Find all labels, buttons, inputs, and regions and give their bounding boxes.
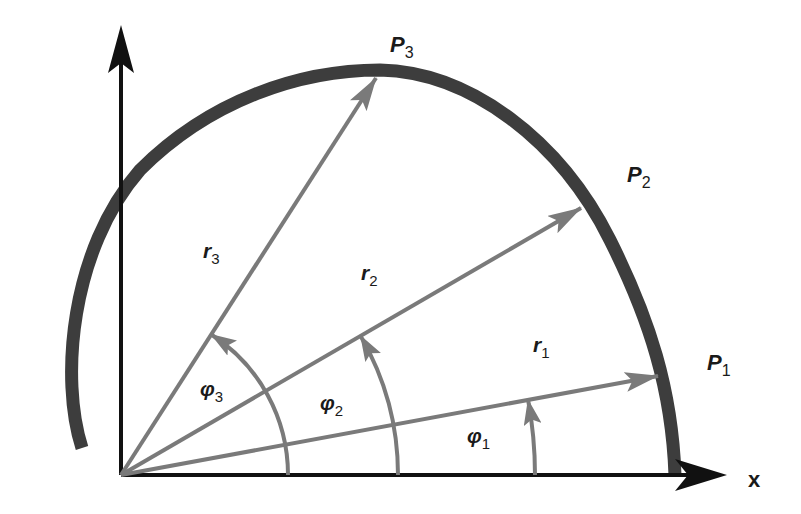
x-axis-label: x xyxy=(748,467,761,492)
angle-arcs xyxy=(211,335,535,476)
point-label-3: P3 xyxy=(390,32,414,61)
point-label-2: P2 xyxy=(627,162,651,191)
radius-label-3: r3 xyxy=(203,239,220,267)
radius-vectors xyxy=(121,78,658,475)
angle-label-1: φ1 xyxy=(467,424,490,452)
polar-diagram: P1P2P3r1r2r3φ1φ2φ3 x xyxy=(0,0,801,514)
radius-label-2: r2 xyxy=(361,261,378,289)
radius-vector-2 xyxy=(121,208,581,475)
angle-arc-2 xyxy=(361,336,398,475)
point-label-1: P1 xyxy=(707,350,731,379)
angle-label-3: φ3 xyxy=(200,377,223,405)
radius-label-1: r1 xyxy=(533,333,550,361)
angle-label-2: φ2 xyxy=(320,391,343,419)
angle-arc-1 xyxy=(528,400,535,475)
